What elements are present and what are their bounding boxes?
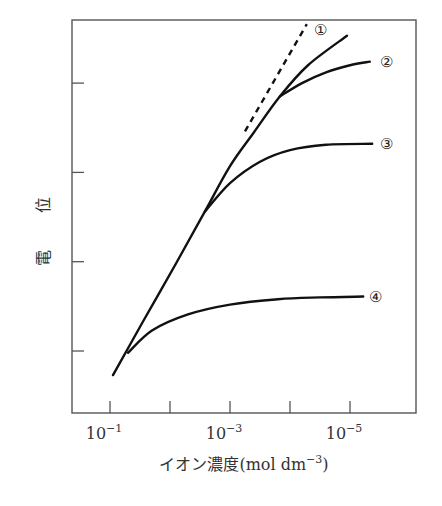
- x-axis-title-main: イオン濃度(mol dm: [159, 455, 306, 474]
- curve-labels: ①②③④: [314, 21, 393, 306]
- x-axis-title: イオン濃度(mol dm−3): [159, 453, 328, 474]
- x-tick-label: 10−5: [326, 422, 363, 443]
- curve-1: [113, 36, 347, 375]
- curve-label-3: ③: [380, 135, 393, 153]
- curve-label-1: ①: [314, 21, 327, 39]
- curve-label-4: ④: [369, 288, 382, 306]
- x-axis-title-sup: −3: [306, 453, 322, 466]
- x-axis-title-close: ): [322, 455, 328, 474]
- y-axis-title-char: 位: [34, 197, 53, 213]
- curve-3: [205, 144, 372, 212]
- x-tick-labels: 10−110−310−5: [86, 422, 363, 443]
- chart: 10−110−310−5 ①②③④ 電 位 イオン濃度(mol dm−3): [0, 0, 442, 506]
- x-tick-label: 10−3: [206, 422, 243, 443]
- y-axis-title: 電 位: [34, 197, 53, 266]
- x-tick-label: 10−1: [86, 422, 123, 443]
- curves: [113, 24, 372, 375]
- ideal-dashed-line: [245, 24, 307, 131]
- curve-4: [128, 297, 363, 353]
- axis-ticks: [72, 83, 350, 413]
- curve-label-2: ②: [380, 53, 393, 71]
- y-axis-title-char: 電: [34, 250, 53, 266]
